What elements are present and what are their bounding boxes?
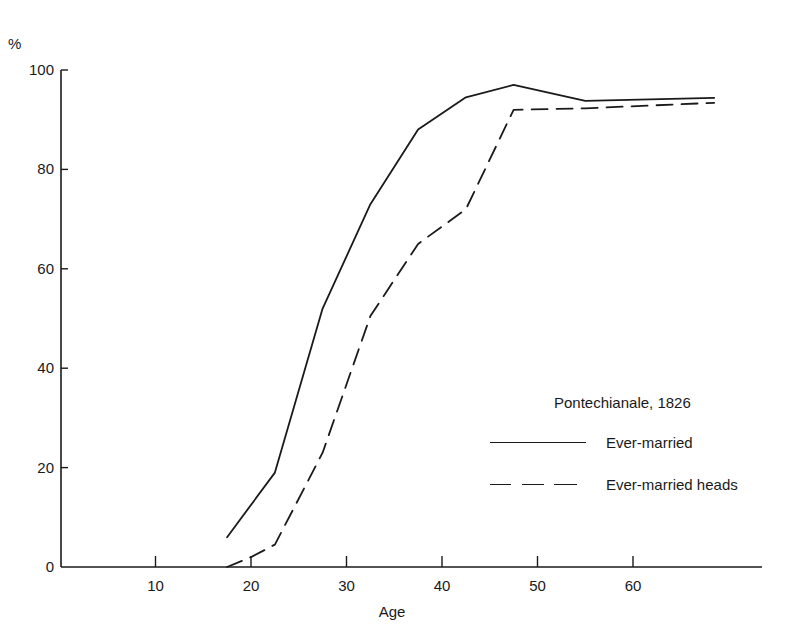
y-tick-label: 60 (37, 260, 54, 277)
plot-area (227, 85, 714, 567)
legend-item-ever-married-heads: Ever-married heads (490, 474, 738, 494)
series-line-ever-married (227, 85, 714, 537)
legend-item-ever-married: Ever-married (490, 432, 693, 452)
y-tick-label: 100 (29, 61, 54, 78)
legend-label: Ever-married (606, 434, 693, 451)
x-tick-label: 50 (529, 577, 546, 594)
axes: 020406080100%102030405060Age (8, 35, 762, 620)
y-tick-label: 80 (37, 160, 54, 177)
legend-title: Pontechianale, 1826 (554, 394, 691, 411)
x-tick-label: 10 (147, 577, 164, 594)
y-tick-label: 40 (37, 359, 54, 376)
solid-line-swatch-icon (490, 442, 586, 443)
x-tick-label: 20 (243, 577, 260, 594)
legend-label: Ever-married heads (606, 476, 738, 493)
y-tick-label: 0 (46, 558, 54, 575)
line-chart: 020406080100%102030405060Age (0, 0, 799, 637)
y-axis-unit: % (8, 35, 21, 52)
y-tick-label: 20 (37, 459, 54, 476)
x-tick-label: 30 (338, 577, 355, 594)
x-tick-label: 40 (434, 577, 451, 594)
series-line-ever-married-heads (227, 103, 714, 567)
dashed-line-swatch-icon (490, 484, 586, 485)
x-tick-label: 60 (625, 577, 642, 594)
x-axis-title: Age (379, 603, 406, 620)
